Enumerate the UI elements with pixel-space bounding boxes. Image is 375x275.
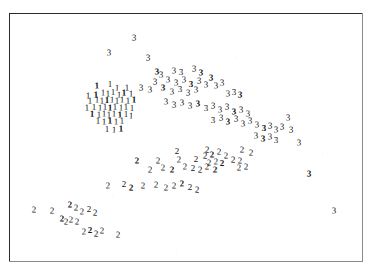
data-point-group-1: 1	[119, 124, 124, 133]
data-points-layer: 1111111111111111111111111111111111111111…	[0, 0, 375, 275]
data-point-group-2: 2	[244, 162, 249, 171]
data-point-group-3: 3	[188, 101, 193, 110]
data-point-group-3: 3	[164, 97, 169, 106]
data-point-group-2: 2	[161, 163, 166, 172]
data-point-group-3: 3	[166, 75, 171, 84]
data-point-group-2: 2	[205, 162, 210, 171]
data-point-group-2: 2	[213, 165, 218, 174]
data-point-group-2: 2	[106, 181, 111, 190]
data-point-group-3: 3	[274, 136, 279, 145]
data-point-group-2: 2	[198, 165, 203, 174]
data-point-group-3: 3	[194, 85, 199, 94]
data-point-group-2: 2	[94, 229, 99, 238]
data-point-group-3: 3	[234, 114, 239, 123]
data-point-group-3: 3	[254, 131, 259, 140]
data-point-group-3: 3	[268, 121, 273, 130]
data-point-group-1: 1	[85, 103, 90, 112]
data-point-group-2: 2	[69, 215, 74, 224]
data-point-group-2: 2	[172, 181, 177, 190]
data-point-group-3: 3	[255, 120, 260, 129]
data-point-group-3: 3	[132, 33, 137, 42]
data-point-group-3: 3	[280, 122, 285, 131]
data-point-group-2: 2	[217, 147, 222, 156]
data-point-group-2: 2	[195, 185, 200, 194]
data-point-group-3: 3	[172, 66, 177, 75]
data-point-group-3: 3	[211, 101, 216, 110]
data-point-group-3: 3	[170, 87, 175, 96]
data-point-group-3: 3	[204, 104, 209, 113]
data-point-group-2: 2	[177, 155, 182, 164]
data-point-group-3: 3	[148, 85, 153, 94]
data-point-group-2: 2	[32, 205, 37, 214]
data-point-group-3: 3	[232, 88, 237, 97]
data-point-group-3: 3	[239, 105, 244, 114]
data-point-group-3: 3	[261, 134, 266, 143]
data-point-group-2: 2	[116, 230, 121, 239]
data-point-group-1: 1	[124, 110, 129, 119]
data-point-group-2: 2	[164, 183, 169, 192]
data-point-group-3: 3	[196, 99, 201, 108]
data-point-group-2: 2	[220, 159, 225, 168]
data-point-group-3: 3	[297, 138, 302, 147]
data-point-group-3: 3	[238, 90, 243, 99]
data-point-group-3: 3	[286, 113, 291, 122]
data-point-group-1: 1	[90, 109, 95, 118]
data-point-group-3: 3	[262, 124, 267, 133]
data-point-group-3: 3	[153, 77, 158, 86]
data-point-group-2: 2	[68, 200, 73, 209]
data-point-group-2: 2	[231, 155, 236, 164]
data-point-group-2: 2	[148, 165, 153, 174]
data-point-group-3: 3	[241, 119, 246, 128]
data-point-group-2: 2	[135, 156, 140, 165]
scatter-plot-figure: 1111111111111111111111111111111111111111…	[0, 0, 375, 275]
data-point-group-3: 3	[332, 206, 337, 215]
data-point-group-3: 3	[220, 78, 225, 87]
data-point-group-3: 3	[178, 85, 183, 94]
data-point-group-3: 3	[209, 73, 214, 82]
data-point-group-2: 2	[93, 208, 98, 217]
data-point-group-3: 3	[161, 83, 166, 92]
data-point-group-2: 2	[50, 206, 55, 215]
data-point-group-2: 2	[129, 183, 134, 192]
data-point-group-2: 2	[191, 164, 196, 173]
data-point-group-3: 3	[146, 53, 151, 62]
data-point-group-2: 2	[64, 217, 69, 226]
data-point-group-2: 2	[249, 148, 254, 157]
data-point-group-2: 2	[80, 207, 85, 216]
data-point-group-1: 1	[105, 125, 110, 134]
data-point-group-3: 3	[289, 125, 294, 134]
data-point-group-2: 2	[156, 156, 161, 165]
data-point-group-2: 2	[180, 179, 185, 188]
data-point-group-3: 3	[192, 64, 197, 73]
data-point-group-3: 3	[307, 169, 312, 178]
data-point-group-3: 3	[225, 102, 230, 111]
data-point-group-2: 2	[88, 226, 93, 235]
data-point-group-3: 3	[159, 70, 164, 79]
data-point-group-3: 3	[211, 116, 216, 125]
data-point-group-3: 3	[204, 80, 209, 89]
data-point-group-3: 3	[248, 116, 253, 125]
data-point-group-2: 2	[188, 183, 193, 192]
data-point-group-2: 2	[75, 217, 80, 226]
data-point-group-2: 2	[87, 205, 92, 214]
data-point-group-3: 3	[172, 100, 177, 109]
data-point-group-1: 1	[129, 111, 134, 120]
data-point-group-2: 2	[82, 227, 87, 236]
data-point-group-3: 3	[226, 89, 231, 98]
data-point-group-3: 3	[274, 125, 279, 134]
data-point-group-3: 3	[214, 81, 219, 90]
data-point-group-2: 2	[74, 203, 79, 212]
data-point-group-1: 1	[112, 125, 117, 134]
data-point-group-3: 3	[139, 83, 144, 92]
data-point-group-2: 2	[154, 180, 159, 189]
data-point-group-2: 2	[100, 226, 105, 235]
data-point-group-3: 3	[268, 132, 273, 141]
data-point-group-2: 2	[183, 162, 188, 171]
data-point-group-3: 3	[219, 113, 224, 122]
data-point-group-2: 2	[240, 145, 245, 154]
data-point-group-3: 3	[180, 98, 185, 107]
data-point-group-1: 1	[96, 116, 101, 125]
data-point-group-3: 3	[107, 48, 112, 57]
data-point-group-2: 2	[170, 165, 175, 174]
data-point-group-3: 3	[226, 117, 231, 126]
